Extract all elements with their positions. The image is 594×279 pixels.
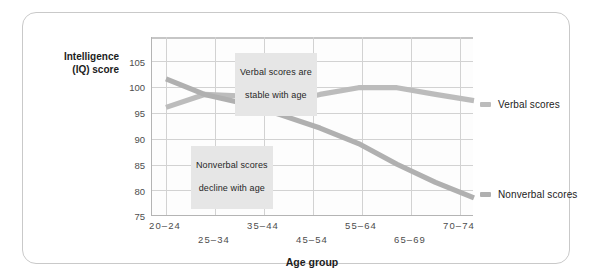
y-tick-label-100: 100 xyxy=(119,82,145,93)
annotation-nonverbal-line-1: Nonverbal scores xyxy=(196,160,268,172)
x-tick-label-55-64: 55–64 xyxy=(345,220,377,231)
annotation-verbal-scores: Verbal scores are stable with age xyxy=(235,53,317,116)
x-tick-label-20-24: 20–24 xyxy=(149,220,181,231)
y-tick-label-75: 75 xyxy=(119,211,145,222)
x-tick-label-35-44: 35–44 xyxy=(247,220,279,231)
x-axis-title: Age group xyxy=(151,256,473,268)
x-tick-label-25-34: 25–34 xyxy=(198,234,230,245)
legend-item-nonverbal-scores: Nonverbal scores xyxy=(480,189,577,200)
annotation-verbal-line-1: Verbal scores are xyxy=(240,67,312,79)
annotation-nonverbal-line-2: decline with age xyxy=(196,183,268,195)
y-axis-title: Intelligence (IQ) score xyxy=(53,51,119,76)
y-axis-title-line-2: (IQ) score xyxy=(53,64,119,77)
y-axis-title-line-1: Intelligence xyxy=(53,51,119,64)
x-tick-label-70-74: 70–74 xyxy=(443,220,475,231)
y-tick-label-95: 95 xyxy=(119,108,145,119)
legend-label-verbal: Verbal scores xyxy=(498,99,560,110)
y-tick-label-90: 90 xyxy=(119,134,145,145)
y-tick-label-80: 80 xyxy=(119,186,145,197)
annotation-verbal-line-2: stable with age xyxy=(240,90,312,102)
legend-swatch-nonverbal-icon xyxy=(480,192,491,197)
legend-item-verbal-scores: Verbal scores xyxy=(480,99,560,110)
x-tick-label-65-69: 65–69 xyxy=(394,234,426,245)
y-tick-label-105: 105 xyxy=(119,57,145,68)
y-tick-label-85: 85 xyxy=(119,160,145,171)
figure-card: Intelligence (IQ) score 105 100 95 90 85… xyxy=(22,12,570,264)
legend-label-nonverbal: Nonverbal scores xyxy=(498,189,577,200)
x-tick-label-45-54: 45–54 xyxy=(296,234,328,245)
annotation-nonverbal-scores: Nonverbal scores decline with age xyxy=(191,146,273,209)
legend-swatch-verbal-icon xyxy=(480,102,491,107)
